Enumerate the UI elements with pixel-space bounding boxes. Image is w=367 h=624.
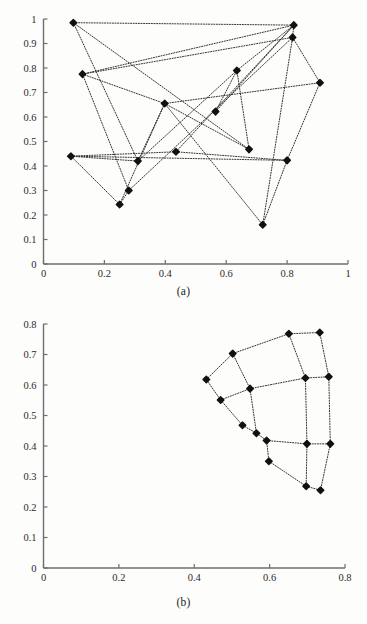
y-tick-label: 0.2	[23, 502, 36, 513]
mesh-edge	[267, 441, 307, 444]
mesh-edge	[320, 333, 329, 377]
x-tick-label: 0.4	[188, 572, 202, 583]
data-point	[263, 437, 270, 444]
mesh-edge	[263, 160, 287, 224]
data-point	[70, 19, 77, 26]
y-tick-label: 0.4	[23, 441, 37, 452]
data-point	[317, 487, 324, 494]
x-tick-label: 0	[41, 268, 46, 279]
data-point	[284, 157, 291, 164]
y-tick-label: 0.7	[23, 349, 36, 360]
mesh-edge	[206, 354, 232, 380]
x-tick-label: 0	[41, 572, 46, 583]
chart-b-plot: 00.20.40.60.800.10.20.30.40.50.60.70.8	[0, 300, 367, 596]
mesh-edge	[82, 25, 293, 74]
x-tick-label: 0.2	[98, 268, 111, 279]
mesh-edge	[306, 444, 307, 486]
y-tick-label: 0.4	[23, 161, 37, 172]
mesh-edge	[73, 23, 138, 161]
mesh-edge	[233, 334, 289, 354]
mesh-edge	[329, 377, 331, 444]
y-tick-label: 1	[31, 14, 36, 25]
data-point	[79, 71, 86, 78]
mesh-edge	[263, 37, 293, 224]
edge-group	[71, 23, 320, 225]
x-tick-label: 0.6	[263, 572, 276, 583]
mesh-edge	[233, 354, 250, 389]
data-point	[303, 483, 310, 490]
data-point	[317, 79, 324, 86]
mesh-edge	[250, 389, 256, 434]
y-tick-label: 0.6	[23, 380, 36, 391]
data-point	[316, 329, 323, 336]
mesh-edge	[216, 25, 294, 111]
y-tick-label: 0.6	[23, 112, 36, 123]
data-point	[266, 458, 273, 465]
figure-page: 00.20.40.60.8100.10.20.30.40.50.60.70.80…	[0, 0, 367, 624]
data-point	[304, 441, 311, 448]
chart-a-container: 00.20.40.60.8100.10.20.30.40.50.60.70.80…	[0, 0, 367, 312]
mesh-edge	[221, 400, 243, 425]
y-tick-label: 0.5	[23, 410, 36, 421]
x-tick-label: 0.6	[220, 268, 233, 279]
point-group	[68, 19, 324, 228]
mesh-edge	[305, 378, 307, 444]
x-tick-label: 0.8	[281, 268, 294, 279]
point-group	[203, 329, 334, 493]
data-point	[247, 385, 254, 392]
mesh-edge	[176, 152, 287, 161]
chart-b-container: 00.20.40.60.800.10.20.30.40.50.60.70.8	[0, 300, 367, 624]
data-point	[325, 373, 332, 380]
mesh-edge	[250, 378, 305, 389]
y-tick-label: 0.7	[23, 87, 36, 98]
mesh-edge	[71, 152, 176, 156]
data-point	[239, 422, 246, 429]
y-tick-label: 0.5	[23, 136, 36, 147]
mesh-edge	[82, 37, 292, 74]
mesh-edge	[129, 37, 293, 190]
x-tick-label: 0.4	[159, 268, 173, 279]
mesh-edge	[321, 444, 331, 490]
data-point	[302, 375, 309, 382]
mesh-edge	[237, 70, 249, 149]
y-tick-label: 0.3	[23, 185, 36, 196]
edge-group	[206, 333, 330, 491]
subcaption-b: (b)	[0, 596, 367, 608]
y-tick-label: 0.1	[23, 234, 36, 245]
y-tick-label: 0.8	[23, 319, 36, 330]
data-point	[253, 430, 260, 437]
y-tick-label: 0.8	[23, 63, 36, 74]
mesh-edge	[71, 156, 120, 204]
x-tick-label: 1	[345, 268, 350, 279]
mesh-edge	[165, 83, 320, 104]
data-point	[246, 146, 253, 153]
mesh-edge	[73, 23, 293, 25]
mesh-edge	[289, 334, 306, 378]
mesh-edge	[289, 333, 320, 334]
data-point	[327, 441, 334, 448]
mesh-edge	[165, 104, 263, 225]
x-tick-label: 0.8	[338, 572, 351, 583]
y-tick-label: 0.1	[23, 532, 36, 543]
y-tick-label: 0.3	[23, 471, 36, 482]
mesh-edge	[221, 389, 250, 400]
subcaption-a: (a)	[0, 285, 367, 297]
x-tick-label: 0.2	[112, 572, 125, 583]
y-tick-label: 0	[31, 259, 36, 270]
data-point	[259, 222, 266, 229]
data-point	[286, 330, 293, 337]
mesh-edge	[293, 37, 320, 82]
mesh-edge	[287, 83, 320, 161]
chart-a-plot: 00.20.40.60.8100.10.20.30.40.50.60.70.80…	[0, 0, 367, 285]
y-tick-label: 0.2	[23, 210, 36, 221]
mesh-edge	[165, 104, 249, 150]
y-tick-label: 0.9	[23, 38, 36, 49]
y-tick-label: 0	[31, 563, 36, 574]
mesh-edge	[206, 380, 220, 400]
mesh-edge	[82, 74, 164, 103]
mesh-edge	[269, 461, 306, 486]
